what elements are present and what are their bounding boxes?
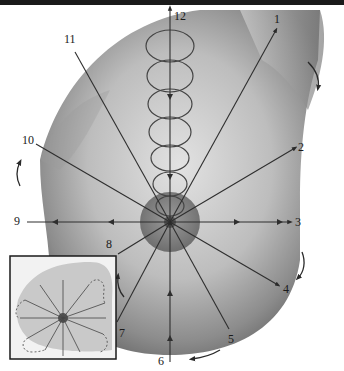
clock-label-5: 5 [228, 333, 234, 345]
clock-label-8: 8 [106, 238, 112, 250]
clock-label-4: 4 [283, 283, 289, 295]
breast-diagram-svg [0, 0, 344, 371]
clock-label-1: 1 [274, 13, 280, 25]
clock-label-2: 2 [298, 141, 304, 153]
clock-label-12: 12 [174, 10, 186, 22]
inset-panel [10, 256, 116, 359]
clock-label-11: 11 [64, 33, 76, 45]
clock-label-7: 7 [119, 327, 125, 339]
clock-label-9: 9 [14, 215, 20, 227]
clock-label-6: 6 [158, 355, 164, 367]
diagram: 12 1 11 10 2 9 3 8 4 7 5 6 [0, 0, 344, 371]
clock-label-10: 10 [22, 134, 34, 146]
clock-label-3: 3 [295, 216, 301, 228]
